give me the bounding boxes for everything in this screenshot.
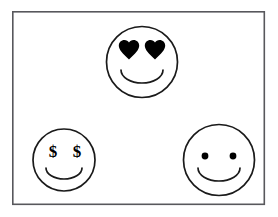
drawing-canvas: $ $ — [0, 0, 278, 217]
money-eyes-face: $ $ — [33, 129, 95, 191]
dot-eyes-face — [184, 125, 255, 196]
dollar-icon-right: $ — [73, 142, 82, 161]
face-outline — [184, 125, 255, 196]
dot-icon-left — [202, 153, 209, 160]
heart-eyes-face — [107, 27, 178, 98]
face-outline — [33, 129, 95, 191]
dot-icon-right — [230, 153, 237, 160]
face-outline — [107, 27, 178, 98]
faces-illustration: $ $ — [0, 0, 278, 217]
dollar-icon-left: $ — [49, 142, 58, 161]
